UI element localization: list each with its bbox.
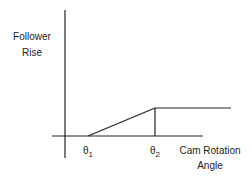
x-axis-label-line2: Angle xyxy=(172,160,248,172)
y-axis-label-line2: Rise xyxy=(6,47,58,59)
theta1-label: θ1 xyxy=(83,145,93,159)
rise-ramp xyxy=(88,108,155,136)
y-axis-label: Follower Rise xyxy=(6,31,58,59)
theta1-subscript: 1 xyxy=(89,150,93,159)
theta2-subscript: 2 xyxy=(156,150,160,159)
y-axis-label-line1: Follower xyxy=(6,31,58,43)
theta2-label: θ2 xyxy=(150,145,160,159)
x-axis-label-line1: Cam Rotation xyxy=(172,145,248,157)
x-axis-label: Cam Rotation Angle xyxy=(172,145,248,172)
